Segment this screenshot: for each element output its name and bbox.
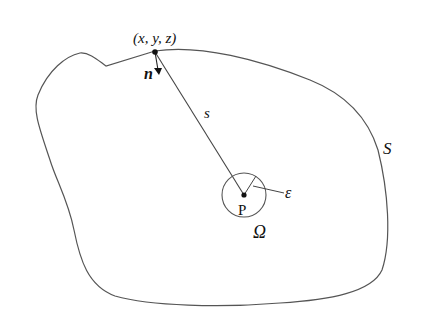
label-normal: n [144,65,153,82]
label-distance-s: s [204,105,210,121]
epsilon-leader-line [253,186,284,193]
surface-point-dot [152,49,158,55]
label-omega: Ω [253,222,266,242]
boundary-surface-curve [36,49,388,305]
label-epsilon: ε [285,184,292,201]
interior-point-dot [241,192,246,197]
normal-arrow-head-icon [154,68,162,75]
diagram-canvas: (x, y, z) n s S P ε Ω [0,0,422,328]
label-point-P: P [238,202,246,218]
distance-line-s [155,52,244,195]
label-surface-point: (x, y, z) [133,30,176,47]
radius-epsilon-line [244,176,256,195]
label-surface-S: S [383,139,392,158]
